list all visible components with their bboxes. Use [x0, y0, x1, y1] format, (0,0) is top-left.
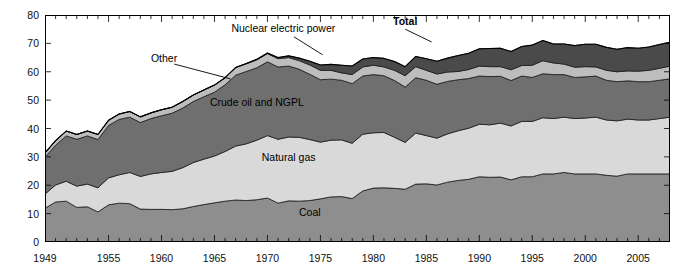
- y-tick-label: 80: [17, 10, 39, 20]
- y-tick-label: 40: [17, 124, 39, 134]
- y-tick-label: 50: [17, 95, 39, 105]
- x-tick-label: 1949: [25, 252, 65, 264]
- y-tick-label: 60: [17, 67, 39, 77]
- y-tick-label: 30: [17, 152, 39, 162]
- x-tick-label: 1985: [406, 252, 446, 264]
- y-tick-label: 20: [17, 180, 39, 190]
- plot-area: TotalNuclear electric powerOtherCrude oi…: [45, 15, 670, 242]
- stacked-area-svg: TotalNuclear electric powerOtherCrude oi…: [45, 15, 670, 242]
- total-label-leader: [405, 29, 431, 42]
- other-label: Other: [151, 52, 178, 64]
- x-tick-label: 1955: [89, 252, 129, 264]
- x-tick-label: 2000: [565, 252, 605, 264]
- x-tick-label: 1980: [353, 252, 393, 264]
- x-tick-label: 1975: [300, 252, 340, 264]
- crude-oil-label: Crude oil and NGPL: [210, 96, 304, 108]
- total-label: Total: [393, 15, 417, 27]
- natural-gas-label: Natural gas: [262, 151, 316, 163]
- other-label-leader: [174, 64, 230, 79]
- x-tick-label: 1990: [459, 252, 499, 264]
- x-tick-label: 1970: [247, 252, 287, 264]
- nuclear-label-leader: [294, 37, 323, 55]
- chart-figure: Quadrillion Btu (cumulative) 01020304050…: [0, 0, 684, 274]
- coal-label: Coal: [299, 206, 321, 218]
- x-tick-label: 2005: [618, 252, 658, 264]
- y-tick-label: 0: [17, 237, 39, 247]
- x-tick-label: 1965: [194, 252, 234, 264]
- x-tick-label: 1960: [142, 252, 182, 264]
- x-tick-label: 1995: [512, 252, 552, 264]
- y-tick-label: 10: [17, 209, 39, 219]
- nuclear-label: Nuclear electric power: [231, 22, 335, 34]
- y-tick-label: 70: [17, 38, 39, 48]
